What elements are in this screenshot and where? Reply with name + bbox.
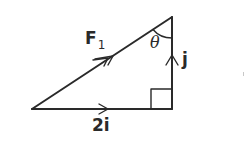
triangle-figure xyxy=(0,0,249,147)
f1-subscript: 1 xyxy=(98,38,106,52)
double-arrow-icon xyxy=(93,52,117,66)
right-angle-marker xyxy=(151,89,172,109)
scan-artifact xyxy=(243,72,244,76)
theta-label: θ xyxy=(150,35,160,51)
vector-2i-label: 2i xyxy=(92,117,110,134)
vector-f1-label: F1 xyxy=(85,30,105,47)
f1-letter: F xyxy=(85,28,97,48)
vector-triangle-diagram: F1 θ j 2i xyxy=(0,0,249,147)
vector-j-label: j xyxy=(182,51,188,68)
